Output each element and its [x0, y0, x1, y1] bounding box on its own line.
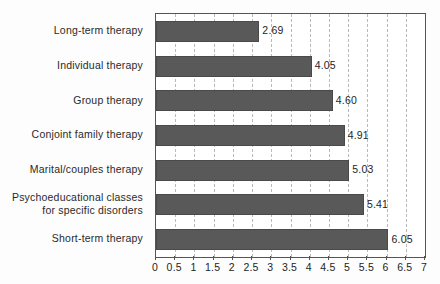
x-tick-mark	[232, 256, 233, 260]
x-tick-label: 1	[190, 261, 196, 273]
x-tick-label: 0.5	[167, 261, 182, 273]
x-tick-mark	[328, 256, 329, 260]
bar	[156, 21, 259, 42]
bar-value-label: 5.03	[352, 163, 373, 175]
bar	[156, 160, 349, 181]
plot-area: 2.694.054.604.915.035.416.05	[155, 13, 426, 258]
bar-value-label: 6.05	[391, 233, 412, 245]
bar-value-label: 4.05	[315, 59, 336, 71]
bars-layer: 2.694.054.604.915.035.416.05	[156, 14, 425, 257]
bar-value-label: 4.60	[336, 94, 357, 106]
bar	[156, 125, 345, 146]
x-tick-mark	[424, 256, 425, 260]
category-axis-labels: Long-term therapyIndividual therapyGroup…	[0, 13, 150, 256]
x-tick-mark	[309, 256, 310, 260]
x-tick-label: 2.5	[243, 261, 258, 273]
bar-value-label: 4.91	[348, 129, 369, 141]
x-tick-mark	[366, 256, 367, 260]
bar-value-label: 2.69	[262, 24, 283, 36]
x-tick-mark	[270, 256, 271, 260]
x-tick-label: 4.5	[320, 261, 335, 273]
x-tick-label: 6	[383, 261, 389, 273]
category-label: Marital/couples therapy	[30, 163, 143, 176]
category-label: Group therapy	[73, 94, 143, 107]
bar-value-label: 5.41	[367, 198, 388, 210]
bar	[156, 56, 312, 77]
x-tick-label: 1.5	[205, 261, 220, 273]
category-label: Short-term therapy	[52, 232, 143, 245]
x-tick-label: 0	[152, 261, 158, 273]
x-axis: 00.511.522.533.544.555.566.57	[155, 256, 425, 284]
x-tick-mark	[251, 256, 252, 260]
x-tick-label: 2	[229, 261, 235, 273]
x-tick-mark	[174, 256, 175, 260]
x-tick-mark	[155, 256, 156, 260]
category-label: Individual therapy	[57, 59, 143, 72]
category-label: Conjoint family therapy	[32, 128, 143, 141]
x-tick-label: 3	[267, 261, 273, 273]
x-tick-mark	[290, 256, 291, 260]
x-tick-mark	[386, 256, 387, 260]
x-tick-mark	[213, 256, 214, 260]
x-tick-label: 4	[306, 261, 312, 273]
bar	[156, 194, 364, 215]
x-tick-label: 7	[421, 261, 427, 273]
bar	[156, 90, 333, 111]
x-tick-mark	[193, 256, 194, 260]
bar	[156, 229, 388, 250]
x-tick-label: 5	[344, 261, 350, 273]
gridline	[425, 14, 426, 257]
x-tick-label: 3.5	[282, 261, 297, 273]
x-tick-label: 6.5	[397, 261, 412, 273]
x-tick-mark	[347, 256, 348, 260]
bar-chart: Long-term therapyIndividual therapyGroup…	[0, 0, 440, 284]
x-tick-mark	[405, 256, 406, 260]
category-label: Long-term therapy	[54, 24, 143, 37]
category-label: Psychoeducational classes for specific d…	[12, 191, 143, 216]
x-tick-label: 5.5	[359, 261, 374, 273]
